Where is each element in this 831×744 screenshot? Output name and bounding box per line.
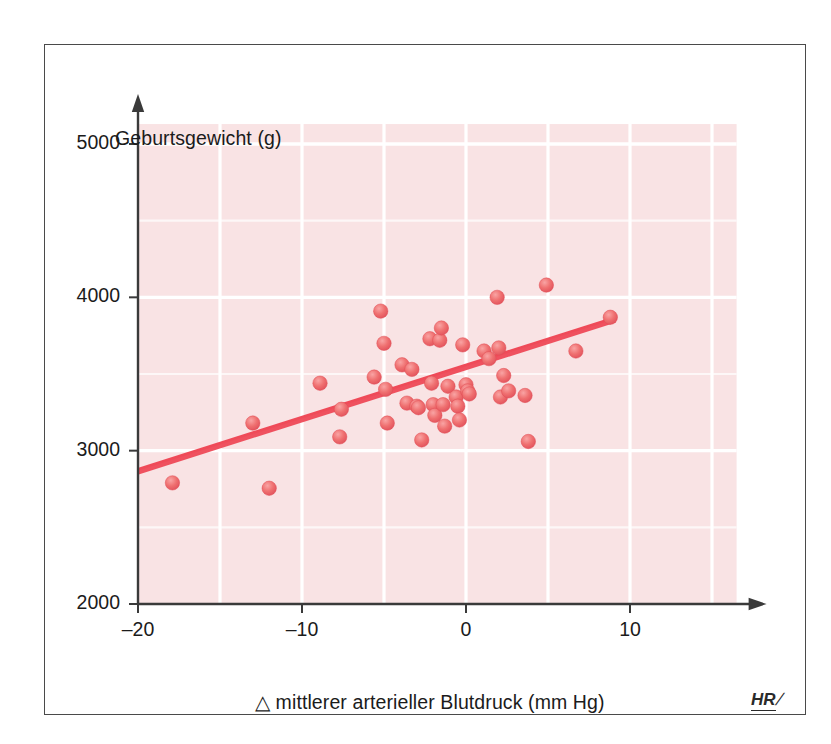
- data-point: [452, 413, 466, 427]
- x-tick-label: 0: [436, 618, 496, 641]
- data-point: [424, 376, 438, 390]
- y-tick-label: 3000: [56, 438, 120, 461]
- data-point: [246, 416, 260, 430]
- data-point: [569, 344, 583, 358]
- data-point: [380, 416, 394, 430]
- data-point: [434, 321, 448, 335]
- data-point: [539, 278, 553, 292]
- data-point: [367, 370, 381, 384]
- y-tick-label: 5000: [56, 131, 120, 154]
- data-point: [374, 304, 388, 318]
- y-tick-label: 2000: [56, 591, 120, 614]
- data-point: [497, 368, 511, 382]
- data-point: [333, 430, 347, 444]
- x-axis-arrow: [749, 598, 767, 610]
- x-tick-label: –20: [108, 618, 168, 641]
- watermark-letters: HR: [751, 690, 776, 711]
- data-point: [521, 434, 535, 448]
- data-point: [415, 433, 429, 447]
- data-point: [501, 384, 515, 398]
- data-point: [411, 401, 425, 415]
- data-point: [492, 341, 506, 355]
- data-point: [451, 399, 465, 413]
- data-point: [518, 388, 532, 402]
- data-point: [334, 402, 348, 416]
- data-point: [165, 476, 179, 490]
- data-point: [377, 336, 391, 350]
- data-point: [405, 362, 419, 376]
- data-point: [490, 290, 504, 304]
- x-tick-label: –10: [272, 618, 332, 641]
- data-point: [462, 387, 476, 401]
- data-point: [456, 338, 470, 352]
- plot-background: [138, 124, 737, 604]
- data-point: [378, 382, 392, 396]
- x-axis-title: △ mittlerer arterieller Blutdruck (mm Hg…: [255, 691, 605, 714]
- y-axis-title: Geburtsgewicht (g): [115, 127, 282, 150]
- data-point: [262, 481, 276, 495]
- x-tick-label: 10: [600, 618, 660, 641]
- data-point: [437, 419, 451, 433]
- publisher-watermark: HR/: [751, 690, 781, 710]
- data-point: [313, 376, 327, 390]
- figure-canvas: Geburtsgewicht (g) △ mittlerer arteriell…: [0, 0, 831, 744]
- figure-frame: Geburtsgewicht (g) △ mittlerer arteriell…: [44, 44, 806, 715]
- y-axis-arrow: [132, 94, 144, 112]
- data-point: [436, 397, 450, 411]
- data-point: [603, 310, 617, 324]
- y-tick-label: 4000: [56, 284, 120, 307]
